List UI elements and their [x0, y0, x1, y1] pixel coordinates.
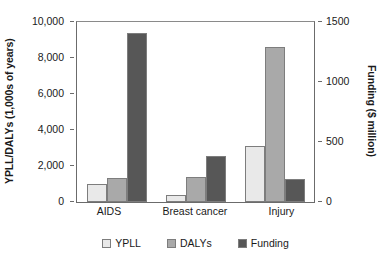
- y-axis-left-tick-mark: [70, 165, 74, 166]
- bar-funding: [285, 179, 305, 202]
- legend-label: DALYs: [180, 238, 212, 249]
- y-axis-left-tick-mark: [70, 93, 74, 94]
- x-axis-category-label: Injury: [269, 206, 295, 217]
- y-axis-left-tick-label: 4,000: [38, 124, 64, 135]
- y-axis-left-ticks: 02,0004,0006,0008,00010,000: [26, 0, 70, 261]
- bar-dalys: [186, 177, 206, 202]
- y-axis-right-tick-label: 500: [326, 136, 344, 147]
- y-axis-left-tick-mark: [70, 129, 74, 130]
- y-axis-right-title: Funding ($ million): [366, 20, 377, 202]
- x-axis-category-label: AIDS: [97, 206, 122, 217]
- y-axis-right-tick-label: 0: [326, 196, 332, 207]
- legend-label: Funding: [251, 238, 289, 249]
- y-axis-left-tick-label: 8,000: [38, 52, 64, 63]
- y-axis-right-tick-mark: [318, 21, 322, 22]
- chart-legend: YPLLDALYsFunding: [76, 238, 315, 249]
- chart-figure: YPLL/DALYs (1,000s of years) Funding ($ …: [0, 0, 386, 261]
- y-axis-right-tick-mark: [318, 201, 322, 202]
- legend-swatch-icon: [102, 239, 111, 248]
- y-axis-left-tick-label: 10,000: [32, 16, 64, 27]
- bar-funding: [206, 156, 226, 202]
- y-axis-right-tick-mark: [318, 141, 322, 142]
- y-axis-right-ticks: 050010001500: [318, 0, 362, 261]
- x-axis-category-label: Breast cancer: [163, 206, 228, 217]
- bar-dalys: [265, 47, 285, 202]
- y-axis-right-tick-mark: [318, 81, 322, 82]
- y-axis-right-tick-label: 1500: [326, 16, 349, 27]
- y-axis-left-title: YPLL/DALYs (1,000s of years): [4, 20, 15, 202]
- legend-item: DALYs: [167, 238, 212, 249]
- legend-label: YPLL: [115, 238, 141, 249]
- bar-ypll: [166, 195, 186, 202]
- y-axis-left-tick-mark: [70, 201, 74, 202]
- bar-group: [166, 22, 226, 202]
- plot-area: [76, 21, 315, 203]
- legend-swatch-icon: [167, 239, 176, 248]
- y-axis-right-tick-label: 1000: [326, 76, 349, 87]
- bar-group: [245, 22, 305, 202]
- x-axis-category-labels: AIDSBreast cancerInjury: [76, 206, 315, 217]
- bar-funding: [127, 33, 147, 202]
- y-axis-left-tick-mark: [70, 57, 74, 58]
- y-axis-left-tick-mark: [70, 21, 74, 22]
- bar-ypll: [245, 146, 265, 202]
- bar-ypll: [87, 184, 107, 202]
- y-axis-left-tick-label: 6,000: [38, 88, 64, 99]
- legend-swatch-icon: [238, 239, 247, 248]
- y-axis-left-tick-label: 2,000: [38, 160, 64, 171]
- legend-item: Funding: [238, 238, 289, 249]
- bar-group: [87, 22, 147, 202]
- y-axis-left-tick-label: 0: [58, 196, 64, 207]
- legend-item: YPLL: [102, 238, 141, 249]
- bar-dalys: [107, 178, 127, 202]
- bar-groups: [77, 22, 314, 202]
